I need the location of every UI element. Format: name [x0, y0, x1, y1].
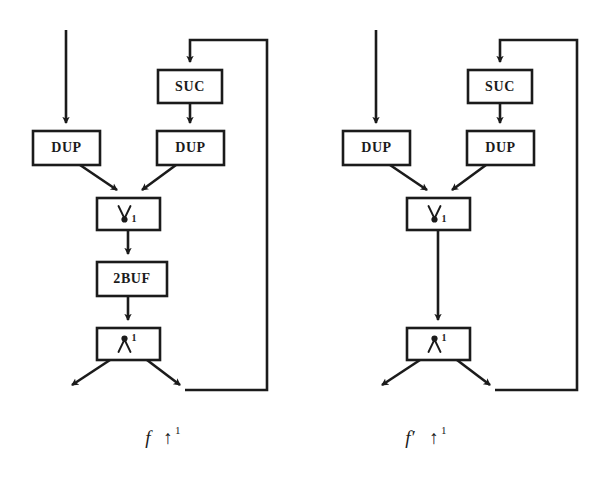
edge-dup-left-to-merge-left	[80, 165, 117, 190]
node-dup-left-right-label: DUP	[361, 140, 392, 155]
node-dup-right-left-label: DUP	[175, 140, 206, 155]
diagram-right: SUC DUP DUP 1	[343, 30, 577, 448]
caption-left-arrow: ↑	[163, 427, 173, 448]
caption-left: f ↑ 1	[145, 424, 180, 448]
node-buf-left-label: 2BUF	[113, 271, 150, 286]
node-dup-right-right: DUP	[467, 131, 534, 165]
caption-right-name: f′	[405, 427, 415, 448]
caption-left-exponent: 1	[175, 424, 181, 436]
figure-dataflow-graphs: SUC DUP DUP 1	[0, 0, 603, 480]
edge-split-to-feedback-right	[457, 360, 490, 385]
edge-split-to-feedback-left	[147, 360, 180, 385]
caption-right: f′ ↑ 1	[405, 424, 446, 448]
node-merge-left-index: 1	[132, 213, 137, 224]
node-dup-right-left: DUP	[157, 131, 224, 165]
edge-split-to-output-left	[72, 360, 110, 385]
node-suc-left-label: SUC	[175, 79, 205, 94]
caption-right-exponent: 1	[441, 424, 447, 436]
node-merge-left: 1	[97, 198, 160, 230]
node-merge-right: 1	[407, 198, 470, 230]
node-merge-right-index: 1	[442, 213, 447, 224]
node-dup-left-left: DUP	[33, 131, 100, 165]
node-split-left-index: 1	[132, 332, 137, 343]
edge-dup-left-to-merge-right	[390, 165, 427, 190]
caption-right-arrow: ↑	[429, 427, 439, 448]
node-split-left: 1	[97, 328, 160, 360]
node-buf-left: 2BUF	[97, 262, 167, 296]
edge-dup-right-to-merge-right	[452, 165, 486, 190]
node-dup-left-left-label: DUP	[51, 140, 82, 155]
node-dup-right-right-label: DUP	[485, 140, 516, 155]
edge-dup-right-to-merge-left	[142, 165, 176, 190]
node-suc-right: SUC	[468, 70, 532, 103]
node-split-right-index: 1	[442, 332, 447, 343]
caption-left-name: f	[145, 427, 153, 448]
node-split-right: 1	[407, 328, 470, 360]
diagram-left: SUC DUP DUP 1	[33, 30, 267, 448]
node-dup-left-right: DUP	[343, 131, 410, 165]
node-suc-right-label: SUC	[485, 79, 515, 94]
node-suc-left: SUC	[158, 70, 222, 103]
edge-split-to-output-right	[382, 360, 420, 385]
